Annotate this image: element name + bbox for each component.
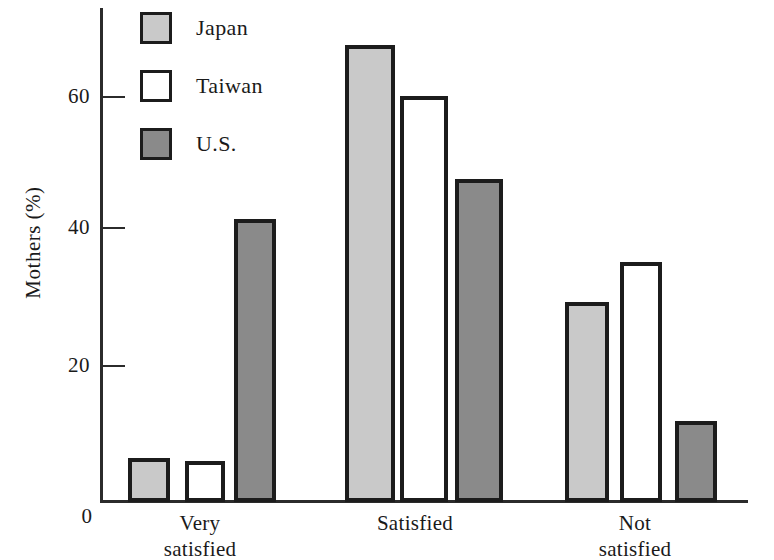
bar-not-satisfied-taiwan <box>620 262 662 502</box>
bar-chart: Mothers (%) 60 40 20 0 Very satisfied Sa… <box>0 0 774 560</box>
legend-label-japan: Japan <box>196 15 248 41</box>
bar-not-satisfied-japan <box>565 302 609 502</box>
y-tick-40 <box>103 227 125 229</box>
legend-swatch-japan-icon <box>140 12 172 44</box>
bar-satisfied-us <box>455 179 503 502</box>
y-tick-label-60: 60 <box>42 86 90 107</box>
y-tick-label-20: 20 <box>42 355 90 376</box>
bar-not-satisfied-us <box>675 421 717 502</box>
y-axis-line <box>100 8 103 502</box>
x-category-label-line1: Not <box>555 510 715 536</box>
y-tick-60 <box>103 96 125 98</box>
bar-satisfied-taiwan <box>400 96 448 502</box>
legend-label-taiwan: Taiwan <box>196 73 263 99</box>
y-tick-label-40: 40 <box>42 217 90 238</box>
bar-satisfied-japan <box>345 45 395 502</box>
legend-swatch-taiwan-icon <box>140 70 172 102</box>
x-category-label-satisfied: Satisfied <box>335 510 495 536</box>
x-category-label-line2: satisfied <box>120 536 280 560</box>
bar-very-satisfied-taiwan <box>185 461 225 502</box>
y-axis-title: Mothers (%) <box>23 148 44 338</box>
y-tick-20 <box>103 365 125 367</box>
legend-label-us: U.S. <box>196 131 237 157</box>
x-category-label-line1: Very <box>120 510 280 536</box>
legend-swatch-us-icon <box>140 128 172 160</box>
x-category-label-not-satisfied: Not satisfied <box>555 510 715 560</box>
x-category-label-line2: satisfied <box>555 536 715 560</box>
x-category-label-line1: Satisfied <box>335 510 495 536</box>
y-tick-label-0: 0 <box>52 506 92 527</box>
bar-very-satisfied-us <box>234 219 276 502</box>
bar-very-satisfied-japan <box>128 458 170 502</box>
x-category-label-very-satisfied: Very satisfied <box>120 510 280 560</box>
